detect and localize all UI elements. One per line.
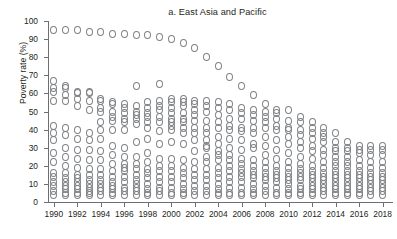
- scatter-point: [332, 129, 339, 137]
- scatter-point: [367, 191, 374, 199]
- scatter-point: [273, 191, 280, 199]
- scatter-point: [109, 142, 116, 150]
- x-axis-tick: [124, 203, 125, 207]
- x-axis-tick: [171, 203, 172, 207]
- x-axis-tick-label: 1996: [115, 209, 134, 219]
- scatter-point: [74, 155, 81, 163]
- x-axis-tick: [195, 203, 196, 207]
- scatter-point: [74, 135, 81, 143]
- scatter-point: [86, 97, 93, 105]
- scatter-point: [262, 191, 269, 199]
- scatter-point: [215, 62, 222, 70]
- y-axis-tick-label: 30: [29, 143, 38, 153]
- scatter-point: [250, 144, 257, 152]
- scatter-point: [180, 191, 187, 199]
- scatter-point: [133, 138, 140, 146]
- x-axis-tick-label: 1998: [138, 209, 157, 219]
- scatter-point: [109, 151, 116, 159]
- x-axis-tick: [218, 203, 219, 207]
- scatter-point: [86, 136, 93, 144]
- scatter-point: [180, 129, 187, 137]
- scatter-point: [97, 147, 104, 155]
- scatter-point: [97, 108, 104, 116]
- scatter-point: [50, 158, 57, 166]
- scatter-point: [203, 53, 210, 61]
- x-axis-tick-label: 2000: [162, 209, 181, 219]
- scatter-point: [144, 124, 151, 132]
- scatter-point: [226, 135, 233, 143]
- scatter-point: [86, 156, 93, 164]
- scatter-point: [156, 118, 163, 126]
- scatter-point: [332, 191, 339, 199]
- scatter-point: [133, 31, 140, 39]
- scatter-point: [238, 146, 245, 154]
- scatter-point: [285, 191, 292, 199]
- y-axis-tick-label: 20: [29, 161, 38, 171]
- scatter-point: [226, 106, 233, 114]
- x-axis-tick: [336, 203, 337, 207]
- x-axis-tick: [359, 203, 360, 207]
- y-axis-tick-label: 10: [29, 179, 38, 189]
- scatter-point: [191, 191, 198, 199]
- scatter-point: [156, 140, 163, 148]
- scatter-point: [273, 126, 280, 134]
- x-axis-tick: [77, 203, 78, 207]
- scatter-point: [109, 126, 116, 134]
- x-axis-ticks: [48, 203, 393, 208]
- scatter-point: [262, 124, 269, 132]
- scatter-point: [356, 191, 363, 199]
- scatter-point: [121, 126, 128, 134]
- scatter-point: [133, 120, 140, 128]
- scatter-point: [62, 144, 69, 152]
- scatter-point: [168, 191, 175, 199]
- scatter-point: [262, 133, 269, 141]
- scatter-point: [133, 191, 140, 199]
- x-axis-tick-labels: 1990199219941996199820002002200420062008…: [0, 209, 397, 223]
- scatter-point: [238, 115, 245, 123]
- chart-figure: a. East Asia and Pacific Poverty rate (%…: [0, 0, 397, 239]
- scatter-point: [297, 191, 304, 199]
- scatter-point: [50, 88, 57, 96]
- x-axis-tick: [289, 203, 290, 207]
- scatter-point: [262, 142, 269, 150]
- scatter-point: [144, 149, 151, 157]
- scatter-point: [168, 126, 175, 134]
- y-axis-tick-label: 60: [29, 88, 38, 98]
- scatter-point: [86, 146, 93, 154]
- scatter-point: [203, 144, 210, 152]
- x-axis-tick-label: 2012: [303, 209, 322, 219]
- scatter-point: [50, 26, 57, 34]
- scatter-point: [273, 136, 280, 144]
- scatter-point: [191, 44, 198, 52]
- scatter-point: [121, 144, 128, 152]
- scatter-point: [109, 191, 116, 199]
- scatter-point: [156, 80, 163, 88]
- scatter-point: [226, 191, 233, 199]
- x-axis-tick: [242, 203, 243, 207]
- scatter-point: [379, 191, 386, 199]
- x-axis-tick-label: 2014: [326, 209, 345, 219]
- scatter-point: [285, 140, 292, 148]
- scatter-point: [62, 97, 69, 105]
- y-axis-tick-label: 70: [29, 70, 38, 80]
- scatter-point: [238, 191, 245, 199]
- scatter-point: [133, 82, 140, 90]
- scatter-point: [215, 191, 222, 199]
- scatter-point: [144, 191, 151, 199]
- scatter-point: [250, 191, 257, 199]
- scatter-point: [156, 33, 163, 41]
- scatter-point: [320, 191, 327, 199]
- chart-title: a. East Asia and Pacific: [0, 7, 397, 17]
- scatter-point: [62, 153, 69, 161]
- x-axis-tick-label: 2002: [185, 209, 204, 219]
- x-axis-tick-label: 1990: [45, 209, 64, 219]
- scatter-point: [121, 191, 128, 199]
- scatter-point: [203, 108, 210, 116]
- scatter-point: [109, 30, 116, 38]
- y-axis-tick-labels: 0102030405060708090100: [20, 21, 44, 202]
- scatter-point: [109, 117, 116, 125]
- scatter-point: [226, 73, 233, 81]
- scatter-point: [191, 136, 198, 144]
- scatter-point: [74, 26, 81, 34]
- scatter-point: [238, 127, 245, 135]
